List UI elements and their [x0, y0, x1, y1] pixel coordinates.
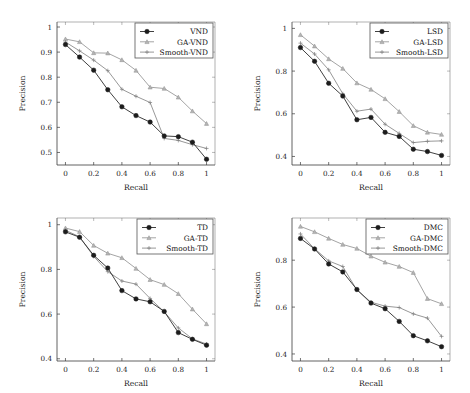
data-point [134, 94, 138, 98]
x-tick-label: 0.4 [351, 365, 363, 374]
data-point [298, 224, 302, 228]
legend-label: Smooth-DMC [393, 244, 444, 253]
legend-label: GA-LSD [413, 38, 443, 47]
legend-marker [147, 225, 152, 230]
y-tick-label: 0.8 [276, 67, 288, 76]
data-point [298, 45, 303, 50]
x-tick-label: 0.2 [323, 169, 334, 178]
y-axis-label: Precision [253, 272, 262, 308]
legend-label: Smooth-VND [160, 48, 208, 57]
chart-svg-bottom-right: 00.20.40.60.81Recall0.40.60.8PrecisionDM… [235, 196, 470, 393]
data-point [397, 306, 401, 310]
panel-bottom-right: 00.20.40.60.81Recall0.40.60.8PrecisionDM… [235, 196, 470, 393]
legend-label: GA-DMC [410, 234, 443, 243]
x-tick-label: 0.8 [173, 365, 185, 374]
legend: LSDGA-LSDSmooth-LSD [370, 23, 448, 58]
data-point [383, 306, 388, 311]
y-axis-label: Precision [18, 272, 27, 308]
data-point [369, 115, 374, 120]
data-point [134, 113, 139, 118]
data-point [63, 230, 68, 235]
series-vnd [63, 42, 209, 161]
legend-label: Smooth-TD [166, 244, 208, 253]
data-point [91, 253, 96, 258]
x-tick-label: 0 [63, 365, 68, 374]
data-point [148, 101, 152, 105]
legend-label: GA-VND [177, 38, 208, 47]
data-point [120, 105, 125, 110]
x-tick-label: 0 [298, 169, 303, 178]
x-tick-label: 0.4 [351, 169, 363, 178]
data-point [341, 265, 345, 269]
x-axis-label: Recall [359, 183, 383, 192]
data-point [148, 120, 153, 125]
x-tick-label: 0.8 [408, 365, 420, 374]
chart-svg-top-right: 00.20.40.60.81Recall0.40.60.81PrecisionL… [235, 0, 470, 196]
data-point [176, 134, 181, 139]
y-tick-label: 0.5 [41, 148, 53, 157]
data-point [439, 344, 444, 349]
y-axis-label: Precision [253, 76, 262, 112]
panel-bottom-left: 00.20.40.60.81Recall0.40.60.81PrecisionT… [0, 196, 235, 393]
data-point [190, 140, 195, 145]
data-point [106, 251, 110, 255]
data-point [78, 49, 82, 53]
data-point [106, 266, 111, 271]
y-tick-label: 0.6 [276, 109, 288, 118]
legend-label: VND [189, 27, 208, 36]
y-tick-label: 0.9 [41, 48, 53, 57]
data-point [411, 312, 415, 316]
data-point [341, 270, 346, 275]
data-point [204, 343, 209, 348]
data-point [204, 157, 209, 162]
x-axis-label: Recall [124, 379, 148, 388]
x-tick-label: 0.8 [408, 169, 420, 178]
legend-label: DMC [424, 223, 443, 232]
data-point [120, 288, 125, 293]
data-point [77, 55, 82, 60]
series-lsd [298, 45, 444, 157]
data-point [91, 68, 96, 73]
x-axis-label: Recall [124, 183, 148, 192]
x-tick-label: 1 [439, 169, 444, 178]
data-point [190, 337, 195, 342]
data-point [120, 58, 124, 62]
x-tick-label: 0.2 [88, 169, 99, 178]
panel-top-right: 00.20.40.60.81Recall0.40.60.81PrecisionL… [235, 0, 470, 196]
data-point [162, 309, 167, 314]
x-tick-label: 0.6 [379, 365, 391, 374]
legend-label: GA-TD [184, 234, 208, 243]
x-tick-label: 1 [204, 365, 209, 374]
data-point [425, 339, 430, 344]
data-point [205, 146, 209, 150]
y-tick-label: 0.4 [276, 152, 288, 161]
data-point [312, 247, 317, 252]
data-point [383, 130, 388, 135]
data-point [397, 134, 402, 139]
data-point [77, 235, 82, 240]
data-point [439, 153, 444, 158]
x-tick-label: 0.4 [116, 169, 128, 178]
legend-label: TD [197, 223, 208, 232]
legend: TDGA-TDSmooth-TD [137, 219, 213, 254]
data-point [369, 87, 373, 91]
data-point [148, 300, 153, 305]
x-tick-label: 0.8 [173, 169, 185, 178]
legend: VNDGA-VNDSmooth-VND [135, 23, 213, 58]
data-point [369, 301, 374, 306]
y-tick-label: 0.8 [41, 73, 53, 82]
x-tick-label: 0 [63, 169, 68, 178]
data-point [411, 147, 416, 152]
x-tick-label: 1 [439, 365, 444, 374]
data-point [106, 87, 111, 92]
data-point [341, 94, 346, 99]
chart-svg-top-left: 00.20.40.60.81Recall0.50.60.70.80.91Prec… [0, 0, 235, 196]
data-point [176, 330, 181, 335]
data-point [440, 139, 444, 143]
panel-top-left: 00.20.40.60.81Recall0.50.60.70.80.91Prec… [0, 0, 235, 196]
data-point [162, 134, 167, 139]
data-point [369, 254, 373, 258]
x-tick-label: 0.2 [323, 365, 334, 374]
data-point [298, 236, 303, 241]
y-tick-label: 0.8 [276, 256, 288, 265]
